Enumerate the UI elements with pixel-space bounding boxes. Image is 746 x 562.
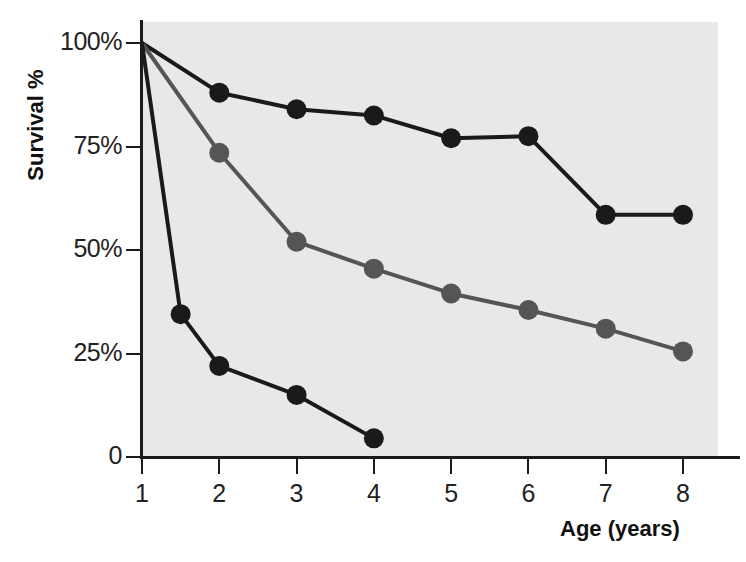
x-axis-tick-label: 7: [586, 479, 626, 508]
y-tick-100%: [126, 42, 141, 44]
x-axis-tick-label: 3: [277, 479, 317, 508]
y-axis-tick-label: 25%: [73, 338, 122, 367]
plot-area: [143, 22, 718, 457]
survival-chart: 025%50%75%100% 12345678 Survival % Age (…: [0, 0, 746, 562]
x-axis-tick-label: 1: [122, 479, 162, 508]
y-tick-25%: [126, 353, 141, 355]
x-axis-tick-label: 2: [199, 479, 239, 508]
y-tick-50%: [126, 249, 141, 251]
y-axis-tick-label: 100%: [60, 27, 122, 56]
x-axis-tick-label: 4: [354, 479, 394, 508]
x-tick-5: [450, 459, 452, 474]
y-tick-0: [126, 456, 141, 458]
x-tick-7: [605, 459, 607, 474]
x-axis-title: Age (years): [560, 516, 680, 542]
y-axis-tick-label: 0: [109, 441, 122, 470]
y-tick-75%: [126, 146, 141, 148]
x-axis-tick-label: 8: [663, 479, 703, 508]
y-axis-tick-label: 50%: [73, 234, 122, 263]
x-tick-3: [296, 459, 298, 474]
x-axis-tick-label: 6: [508, 479, 548, 508]
x-tick-1: [141, 459, 143, 474]
x-tick-6: [527, 459, 529, 474]
x-axis-tick-label: 5: [431, 479, 471, 508]
x-axis-line: [140, 456, 740, 459]
y-axis-line: [140, 20, 143, 459]
y-axis-tick-label: 75%: [73, 131, 122, 160]
x-tick-8: [682, 459, 684, 474]
x-tick-2: [218, 459, 220, 474]
x-tick-4: [373, 459, 375, 474]
y-axis-title: Survival %: [23, 45, 49, 205]
